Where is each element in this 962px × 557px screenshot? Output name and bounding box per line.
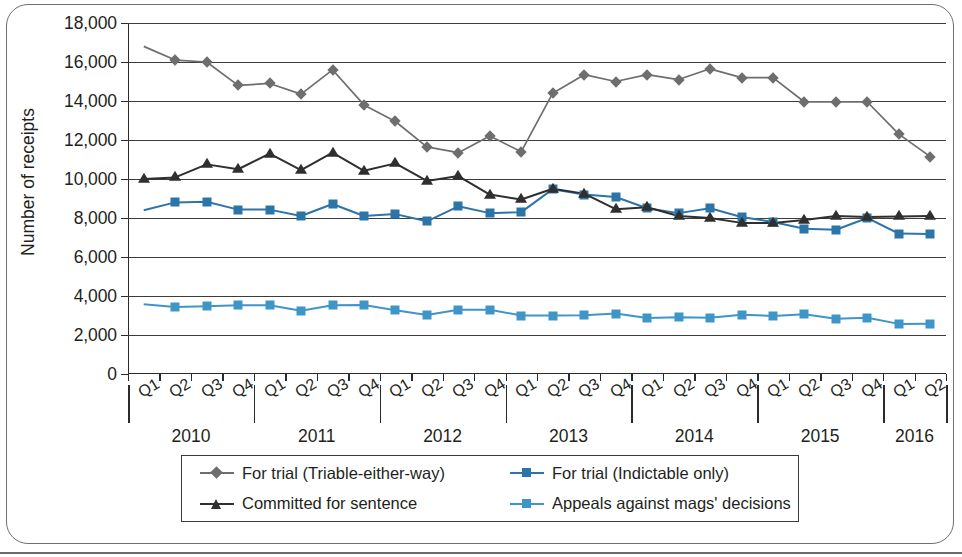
y-axis-tick xyxy=(121,23,128,24)
x-axis-year-separator xyxy=(128,385,130,423)
x-axis-tick xyxy=(506,374,507,381)
x-axis-tick xyxy=(600,374,601,381)
y-axis-tick xyxy=(121,140,128,141)
legend-label: For trial (Indictable only) xyxy=(552,464,729,483)
x-axis-tick xyxy=(568,374,569,381)
y-axis-tick xyxy=(121,62,128,63)
x-axis-quarter-label: Q2 xyxy=(292,375,320,401)
x-axis-quarter-label: Q1 xyxy=(638,375,666,401)
x-axis-tick xyxy=(222,374,223,381)
y-axis-tick-label: 14,000 xyxy=(64,91,117,112)
x-axis-tick xyxy=(694,374,695,381)
series-line xyxy=(144,304,931,324)
x-axis-quarter-label: Q1 xyxy=(764,375,792,401)
y-axis-tick-label: 12,000 xyxy=(64,130,117,151)
x-axis-tick xyxy=(128,374,129,381)
x-axis-year-label: 2011 xyxy=(298,426,336,447)
x-axis-tick xyxy=(443,374,444,381)
y-axis-tick-label: 2,000 xyxy=(74,325,117,346)
x-axis-quarter-label: Q1 xyxy=(261,375,289,401)
x-axis-quarter-label: Q2 xyxy=(921,375,949,401)
x-axis-quarter-label: Q4 xyxy=(607,375,635,401)
y-axis-tick-label: 18,000 xyxy=(64,13,117,34)
y-axis-tick xyxy=(121,374,128,375)
x-axis-year-label: 2010 xyxy=(171,426,210,447)
series-line xyxy=(144,46,931,156)
x-axis-quarter-label: Q3 xyxy=(575,375,603,401)
x-axis-quarter-label: Q2 xyxy=(544,375,572,401)
x-axis-year-separator xyxy=(254,385,256,423)
y-axis-tick-label: 6,000 xyxy=(74,247,117,268)
x-axis-quarter-label: Q3 xyxy=(324,375,352,401)
y-axis-tick xyxy=(121,218,128,219)
x-axis-year-label: 2016 xyxy=(895,426,934,447)
y-axis-tick-label: 4,000 xyxy=(74,286,117,307)
x-axis-tick xyxy=(757,374,758,381)
x-axis-tick xyxy=(631,374,632,381)
y-axis-tick xyxy=(121,179,128,180)
x-axis-quarter-label: Q3 xyxy=(701,375,729,401)
x-axis-tick xyxy=(726,374,727,381)
legend-item[interactable]: Committed for sentence xyxy=(200,494,510,513)
x-axis-quarter-label: Q1 xyxy=(386,375,414,401)
x-axis-quarter-label: Q2 xyxy=(418,375,446,401)
y-axis-tick xyxy=(121,101,128,102)
x-axis-quarter-label: Q1 xyxy=(512,375,540,401)
x-axis-tick xyxy=(852,374,853,381)
x-axis-quarter-label: Q4 xyxy=(229,375,257,401)
x-axis-tick xyxy=(915,374,916,381)
legend-marker-icon xyxy=(510,466,544,480)
x-axis-tick xyxy=(348,374,349,381)
x-axis-tick xyxy=(474,374,475,381)
legend-item[interactable]: Appeals against mags' decisions xyxy=(510,494,798,513)
x-axis-quarter-label: Q3 xyxy=(827,375,855,401)
page-divider-rule xyxy=(0,552,962,554)
x-axis-year-separator xyxy=(506,385,508,423)
x-axis-tick xyxy=(946,374,947,381)
x-axis-tick xyxy=(285,374,286,381)
x-axis-quarter-label: Q4 xyxy=(858,375,886,401)
x-axis-quarter-label: Q2 xyxy=(166,375,194,401)
y-axis-tick-label: 10,000 xyxy=(64,169,117,190)
x-axis-quarter-label: Q2 xyxy=(670,375,698,401)
x-axis-quarter-label: Q2 xyxy=(795,375,823,401)
y-axis-tick xyxy=(121,296,128,297)
x-axis-tick xyxy=(663,374,664,381)
x-axis-quarter-label: Q4 xyxy=(481,375,509,401)
legend-marker-icon xyxy=(200,466,234,480)
x-axis-quarter-label: Q4 xyxy=(733,375,761,401)
legend-label: For trial (Triable-either-way) xyxy=(242,464,445,483)
legend-item[interactable]: For trial (Triable-either-way) xyxy=(200,464,510,483)
x-axis-year-separator xyxy=(883,385,885,423)
x-axis-quarter-label: Q3 xyxy=(198,375,226,401)
x-axis-year-label: 2012 xyxy=(423,426,462,447)
legend-label: Appeals against mags' decisions xyxy=(552,494,791,513)
x-axis-tick xyxy=(191,374,192,381)
chart-legend: For trial (Triable-either-way)For trial … xyxy=(181,455,799,522)
x-axis-quarter-label: Q4 xyxy=(355,375,383,401)
x-axis-tick xyxy=(789,374,790,381)
x-axis-year-label: 2014 xyxy=(675,426,714,447)
y-axis-title: Number of receipts xyxy=(18,108,39,256)
legend-item[interactable]: For trial (Indictable only) xyxy=(510,464,798,483)
series-line xyxy=(144,153,931,223)
legend-marker-icon xyxy=(200,497,234,511)
x-axis-tick xyxy=(380,374,381,381)
x-axis-tick xyxy=(411,374,412,381)
x-axis-quarter-label: Q1 xyxy=(890,375,918,401)
y-axis-tick-label: 8,000 xyxy=(74,208,117,229)
x-axis-quarter-label: Q3 xyxy=(449,375,477,401)
y-axis-tick xyxy=(121,257,128,258)
x-axis-year-separator xyxy=(380,385,382,423)
series-line xyxy=(144,189,931,234)
y-axis-tick-label: 16,000 xyxy=(64,52,117,73)
plot-area: 18,00016,00014,00012,00010,0008,0006,000… xyxy=(128,23,946,374)
x-axis-tick xyxy=(883,374,884,381)
x-axis-year-label: 2015 xyxy=(801,426,840,447)
x-axis-year-label: 2013 xyxy=(549,426,588,447)
x-axis-year-separator xyxy=(631,385,633,423)
y-axis-tick-label: 0 xyxy=(107,364,117,385)
y-axis-tick xyxy=(121,335,128,336)
x-axis-tick xyxy=(317,374,318,381)
legend-label: Committed for sentence xyxy=(242,494,417,513)
